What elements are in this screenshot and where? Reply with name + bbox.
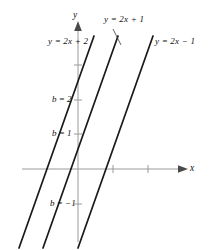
line-y-eq-2x-plus-1 bbox=[43, 36, 118, 248]
y-axis-label: y bbox=[73, 10, 77, 20]
intercept-label-b-equals-1: b = 1 bbox=[52, 128, 72, 138]
x-axis-label: x bbox=[190, 163, 194, 173]
y-axis-arrowhead bbox=[74, 21, 82, 31]
line-label-y-eq-2x-minus-1: y = 2x − 1 bbox=[155, 36, 195, 46]
intercept-label-b-equals-2: b = 2 bbox=[52, 94, 72, 104]
label-leader-line bbox=[113, 29, 121, 45]
line-y-eq-2x-minus-1 bbox=[78, 36, 153, 248]
line-label-y-eq-2x-plus-1: y = 2x + 1 bbox=[104, 14, 144, 24]
y-axis-group bbox=[74, 21, 82, 242]
intercept-label-b-equals-minus-1: b = −1 bbox=[50, 198, 76, 208]
linear-functions-figure: x y y = 2x + 2 y = 2x + 1 y = 2x − 1 b =… bbox=[0, 0, 213, 250]
line-label-y-eq-2x-plus-2: y = 2x + 2 bbox=[48, 36, 88, 46]
x-axis-arrowhead bbox=[178, 165, 188, 173]
line-y-eq-2x-plus-2 bbox=[19, 36, 94, 248]
